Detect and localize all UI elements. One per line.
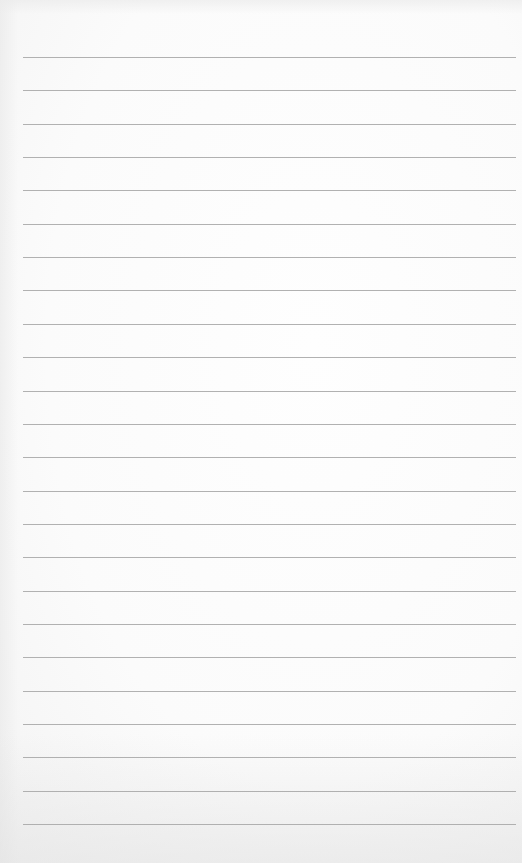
ruled-line: [23, 190, 516, 191]
ruled-line: [23, 757, 516, 758]
ruled-line: [23, 290, 516, 291]
ruled-line: [23, 457, 516, 458]
ruled-line: [23, 257, 516, 258]
paper-top-edge: [0, 0, 522, 14]
ruled-line: [23, 224, 516, 225]
ruled-line: [23, 691, 516, 692]
ruled-line: [23, 424, 516, 425]
ruled-line: [23, 324, 516, 325]
ruled-line: [23, 391, 516, 392]
ruled-line: [23, 357, 516, 358]
ruled-line: [23, 491, 516, 492]
ruled-line: [23, 791, 516, 792]
ruled-line: [23, 557, 516, 558]
ruled-line: [23, 124, 516, 125]
ruled-line: [23, 591, 516, 592]
ruled-line: [23, 824, 516, 825]
ruled-line: [23, 157, 516, 158]
ruled-line: [23, 524, 516, 525]
ruled-line: [23, 724, 516, 725]
ruled-line: [23, 57, 516, 58]
ruled-line: [23, 90, 516, 91]
lined-paper-page: [0, 0, 522, 863]
ruled-line: [23, 657, 516, 658]
ruled-line: [23, 624, 516, 625]
